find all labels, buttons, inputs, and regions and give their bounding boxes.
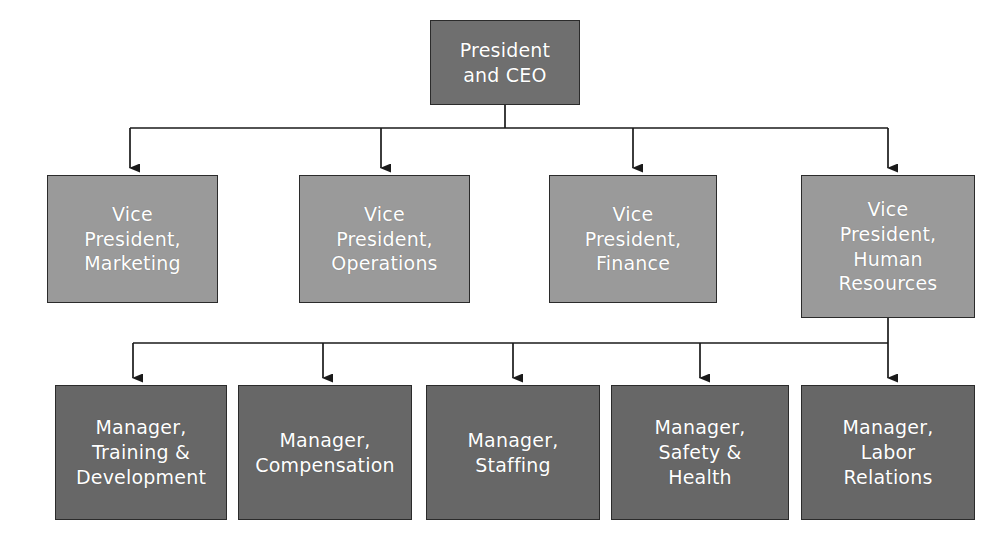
node-label: Vice President, Operations (327, 202, 441, 276)
org-chart: President and CEO Vice President, Market… (0, 0, 1008, 553)
node-president-and-ceo[interactable]: President and CEO (430, 20, 580, 105)
node-manager-safety-and-health[interactable]: Manager, Safety & Health (611, 385, 789, 520)
node-manager-compensation[interactable]: Manager, Compensation (238, 385, 412, 520)
node-manager-training-and-development[interactable]: Manager, Training & Development (55, 385, 227, 520)
node-vice-president-human-resources[interactable]: Vice President, Human Resources (801, 175, 975, 318)
node-manager-staffing[interactable]: Manager, Staffing (426, 385, 600, 520)
node-vice-president-operations[interactable]: Vice President, Operations (299, 175, 470, 303)
node-label: Vice President, Finance (581, 202, 686, 276)
node-label: Vice President, Marketing (80, 202, 185, 276)
node-vice-president-finance[interactable]: Vice President, Finance (549, 175, 717, 303)
node-label: Manager, Compensation (251, 428, 399, 477)
node-label: President and CEO (456, 38, 554, 87)
node-label: Manager, Safety & Health (651, 415, 750, 489)
node-label: Manager, Training & Development (72, 415, 210, 489)
node-label: Vice President, Human Resources (835, 197, 942, 296)
node-label: Manager, Staffing (464, 428, 563, 477)
node-vice-president-marketing[interactable]: Vice President, Marketing (47, 175, 218, 303)
node-label: Manager, Labor Relations (839, 415, 938, 489)
node-manager-labor-relations[interactable]: Manager, Labor Relations (801, 385, 975, 520)
